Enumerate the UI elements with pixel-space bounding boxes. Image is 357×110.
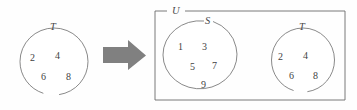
left-set-t-label: T bbox=[50, 22, 56, 33]
set-s-element-9: 9 bbox=[201, 80, 206, 90]
left-element-2: 2 bbox=[30, 53, 35, 63]
set-s-element-3: 3 bbox=[202, 42, 207, 52]
venn-diagram-figure: T 2 4 6 8 U S 1 3 5 7 9 T 2 4 6 8 bbox=[0, 0, 357, 110]
set-s-element-7: 7 bbox=[212, 61, 217, 71]
right-element-4: 4 bbox=[303, 51, 308, 61]
set-s-label: S bbox=[205, 16, 210, 27]
set-s-ellipse bbox=[163, 21, 237, 89]
left-element-4: 4 bbox=[55, 51, 60, 61]
right-set-t-label: T bbox=[299, 22, 305, 33]
right-element-6: 6 bbox=[289, 71, 294, 81]
arrow-right-icon bbox=[103, 40, 146, 70]
left-element-6: 6 bbox=[41, 72, 46, 82]
right-element-8: 8 bbox=[313, 71, 318, 81]
set-s-element-5: 5 bbox=[190, 62, 195, 72]
set-s-element-1: 1 bbox=[178, 42, 183, 52]
right-element-2: 2 bbox=[278, 52, 283, 62]
left-element-8: 8 bbox=[66, 72, 71, 82]
universe-u-label: U bbox=[172, 6, 180, 17]
